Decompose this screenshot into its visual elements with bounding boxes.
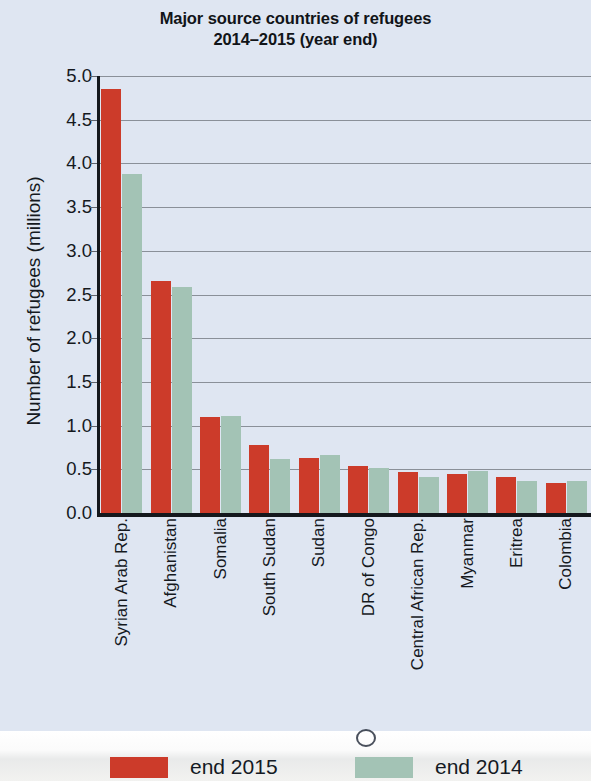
bar-end-2015 [299, 458, 319, 513]
y-axis-tick-label: 3.0 [44, 240, 92, 262]
x-axis-category-label: Myanmar [458, 518, 478, 589]
bar-end-2014 [567, 481, 587, 513]
legend-label-end-2014: end 2014 [435, 755, 523, 779]
x-axis-label-slot: Central African Rep. [395, 518, 441, 718]
x-axis-category-label: DR of Congo [359, 518, 379, 616]
chart-legend: end 2015 end 2014 [0, 731, 591, 781]
x-axis-category-label: Syrian Arab Rep. [112, 518, 132, 647]
plot-area [97, 76, 591, 513]
bar-end-2015 [546, 483, 566, 513]
bar-end-2015 [398, 472, 418, 513]
bar-series-group [97, 76, 591, 513]
x-axis-category-label: Somalia [211, 518, 231, 579]
y-axis-tick-label: 1.5 [44, 371, 92, 393]
bar-end-2015 [348, 466, 368, 513]
y-axis-tick-label: 0.0 [44, 502, 92, 524]
chart-title: Major source countries of refugees 2014–… [0, 8, 591, 50]
x-axis-label-slot: Somalia [198, 518, 244, 718]
bar-end-2015 [249, 445, 269, 513]
bar-end-2014 [270, 459, 290, 513]
x-axis-label-slot: Myanmar [445, 518, 491, 718]
legend-label-end-2015: end 2015 [190, 755, 278, 779]
y-axis-tick-label: 1.0 [44, 415, 92, 437]
y-axis-tick-label: 0.5 [44, 458, 92, 480]
y-axis-tick-labels: 5.04.54.03.53.02.52.01.51.00.50.0 [44, 66, 92, 518]
x-axis-category-label: Afghanistan [161, 518, 181, 608]
y-axis-tick-label: 3.5 [44, 196, 92, 218]
legend-swatch-end-2014 [355, 757, 413, 778]
y-axis-tick-label: 5.0 [44, 65, 92, 87]
x-axis-label-slot: Colombia [543, 518, 589, 718]
y-axis-tick-label: 4.0 [44, 152, 92, 174]
x-axis-label-slot: Syrian Arab Rep. [99, 518, 145, 718]
bar-end-2014 [221, 416, 241, 513]
bar-end-2014 [122, 174, 142, 513]
page-artifact-icon [356, 729, 376, 747]
legend-item-end-2015: end 2015 [110, 755, 278, 779]
legend-item-end-2014: end 2014 [355, 755, 523, 779]
x-axis-category-labels: Syrian Arab Rep.AfghanistanSomaliaSouth … [97, 518, 591, 728]
y-axis-title: Number of refugees (millions) [23, 91, 45, 511]
bar-end-2015 [496, 477, 516, 513]
chart-page: Major source countries of refugees 2014–… [0, 0, 591, 781]
y-axis-tick-label: 4.5 [44, 109, 92, 131]
x-axis-category-label: Eritrea [507, 518, 527, 568]
bar-end-2014 [419, 477, 439, 513]
x-axis-line [97, 513, 591, 517]
bar-end-2015 [200, 417, 220, 513]
x-axis-category-label: Central African Rep. [408, 518, 428, 670]
bar-end-2014 [172, 287, 192, 513]
y-axis-line [97, 76, 100, 517]
chart-title-line-1: Major source countries of refugees [0, 8, 591, 29]
bar-end-2014 [320, 455, 340, 513]
x-axis-label-slot: Eritrea [494, 518, 540, 718]
bar-end-2015 [151, 281, 171, 513]
bar-end-2014 [369, 468, 389, 513]
legend-swatch-end-2015 [110, 757, 168, 778]
x-axis-category-label: South Sudan [260, 518, 280, 616]
x-axis-label-slot: South Sudan [247, 518, 293, 718]
x-axis-label-slot: Afghanistan [148, 518, 194, 718]
y-axis-tick-label: 2.0 [44, 327, 92, 349]
x-axis-label-slot: Sudan [296, 518, 342, 718]
x-axis-category-label: Sudan [309, 518, 329, 567]
bar-end-2014 [517, 481, 537, 513]
bar-end-2015 [101, 89, 121, 513]
chart-title-line-2: 2014–2015 (year end) [0, 29, 591, 50]
y-axis-tick-label: 2.5 [44, 284, 92, 306]
bar-end-2014 [468, 471, 488, 513]
x-axis-label-slot: DR of Congo [346, 518, 392, 718]
bar-end-2015 [447, 474, 467, 513]
x-axis-category-label: Colombia [556, 518, 576, 590]
